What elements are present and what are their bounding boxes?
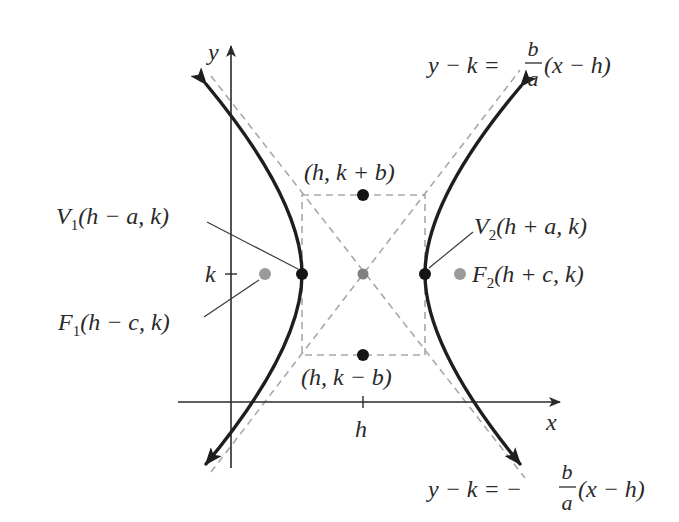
- focus-right-label: F2(h + c, k): [471, 261, 584, 291]
- svg-text:(x − h): (x − h): [578, 476, 645, 502]
- leader-v1: [207, 222, 298, 269]
- y-tick-label-k: k: [205, 261, 216, 287]
- focus-left-label: F1(h − c, k): [57, 309, 170, 339]
- asymptote-positive-equation: y − k = b a (x − h): [426, 36, 611, 91]
- leader-v2: [429, 232, 473, 268]
- co-vertex-top-label: (h, k + b): [304, 159, 395, 185]
- svg-text:a: a: [562, 490, 573, 515]
- asymptote-negative-equation: y − k = − b a (x − h): [426, 459, 645, 515]
- x-axis-label: x: [545, 409, 557, 435]
- svg-text:(x − h): (x − h): [544, 52, 611, 78]
- focus-right-point: [454, 268, 466, 280]
- svg-text:b: b: [528, 36, 539, 61]
- vertex-left-label: V1(h − a, k): [56, 203, 169, 233]
- vertex-left-point: [296, 268, 308, 280]
- svg-text:a: a: [528, 66, 539, 91]
- center-point: [358, 269, 369, 280]
- hyperbola-diagram: y x h k (h, k + b) (h, k − b) V1(h − a, …: [0, 0, 679, 522]
- y-axis-label: y: [206, 39, 219, 65]
- svg-text:y − k = −: y − k = −: [426, 476, 522, 502]
- vertex-right-point: [419, 268, 431, 280]
- co-vertex-bottom-point: [357, 349, 369, 361]
- x-tick-label-h: h: [355, 416, 367, 442]
- focus-left-point: [259, 268, 271, 280]
- co-vertex-bottom-label: (h, k − b): [301, 364, 392, 390]
- vertex-right-label: V2(h + a, k): [474, 213, 587, 243]
- svg-text:b: b: [562, 459, 573, 484]
- co-vertex-top-point: [357, 189, 369, 201]
- svg-text:y − k =: y − k =: [426, 52, 500, 78]
- hyperbola-left-branch: [206, 84, 302, 464]
